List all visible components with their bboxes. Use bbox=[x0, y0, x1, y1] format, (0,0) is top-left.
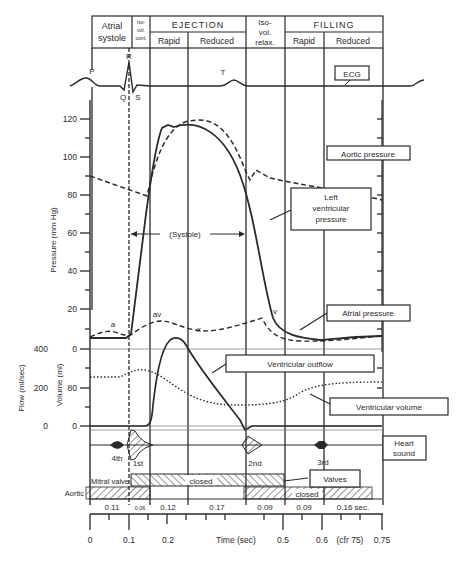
atrial-wave-x: x bbox=[197, 325, 201, 334]
phase-isovol-relax-3: relax. bbox=[255, 38, 275, 47]
ventricular-volume-label: Ventricular volume bbox=[356, 403, 422, 412]
heart-sound-track: 4th 1st 2nd 3rd Heart sound bbox=[90, 430, 426, 468]
pressure-tick-60: 60 bbox=[68, 228, 78, 238]
flow-tick-400: 400 bbox=[34, 344, 48, 354]
time-tick-cfr75: (cfr 75) bbox=[337, 535, 364, 545]
flow-axis-label: Flow (ml/sec) bbox=[17, 364, 26, 412]
ventricular-outflow-curve bbox=[90, 338, 382, 430]
flow-tick-0: 0 bbox=[43, 421, 48, 431]
mitral-valve-label: Mitral valve bbox=[91, 477, 129, 486]
pressure-tick-20: 20 bbox=[68, 304, 78, 314]
aortic-closed-bar-1 bbox=[86, 487, 150, 499]
sound-2nd bbox=[242, 436, 262, 454]
atrial-pressure-label: Atrial pressure bbox=[342, 309, 394, 318]
pressure-tick-80: 80 bbox=[68, 190, 78, 200]
systole-label: (Systole) bbox=[169, 230, 201, 239]
volume-tick-0: 0 bbox=[72, 421, 77, 431]
pressure-tick-40: 40 bbox=[68, 266, 78, 276]
ecg-q-wave-label: Q bbox=[120, 93, 126, 102]
time-tick-0.1: 0.1 bbox=[123, 535, 135, 545]
time-tick-0.5: 0.5 bbox=[277, 535, 289, 545]
flow-tick-200: 200 bbox=[34, 383, 48, 393]
volume-axis-label: Volume (ml) bbox=[55, 363, 64, 406]
heart-sound-label-2: sound bbox=[393, 449, 415, 458]
phase-durations-row: 0.11 0.06 0.12 0.17 0.09 0.09 0.16 sec. bbox=[90, 499, 382, 512]
ecg-trace: P Q R S T ECG bbox=[70, 52, 424, 102]
phase-isovol-cont: Iso- bbox=[137, 19, 146, 25]
aortic-pressure-label: Aortic pressure bbox=[341, 150, 395, 159]
atrial-wave-av: av bbox=[153, 310, 161, 319]
aortic-valve-label: Aortic bbox=[65, 489, 84, 498]
sound-label-2nd: 2nd bbox=[248, 459, 261, 468]
phase-header-table: Atrial systole Iso- vol. cont. EJECTION … bbox=[92, 16, 383, 48]
ecg-s-wave-label: S bbox=[135, 93, 140, 102]
ventricular-outflow-label: Ventricular outflow bbox=[267, 360, 333, 369]
sound-3rd bbox=[314, 441, 328, 449]
valve-track: closed Mitral valve closed Aortic Valves bbox=[65, 470, 372, 499]
phase-isovol-relax: Iso- bbox=[258, 18, 272, 27]
heart-sound-label-1: Heart bbox=[394, 439, 414, 448]
time-axis: 0 0.1 0.2 Time (sec) 0.5 0.6 (cfr 75) 0.… bbox=[88, 514, 391, 545]
phase-ejection-rapid: Rapid bbox=[158, 36, 180, 46]
lv-pressure-label-3: pressure bbox=[315, 215, 347, 224]
ventricular-volume-callout: Ventricular volume bbox=[310, 394, 448, 415]
duration-reduced-ejection: 0.17 bbox=[209, 503, 225, 512]
sound-label-4th: 4th bbox=[111, 454, 122, 463]
atrial-wave-a: a bbox=[111, 320, 116, 329]
time-tick-0.2: 0.2 bbox=[162, 535, 174, 545]
duration-atrial: 0.11 bbox=[105, 503, 121, 512]
sound-label-3rd: 3rd bbox=[317, 458, 329, 467]
time-tick-0: 0 bbox=[88, 535, 93, 545]
pressure-tick-100: 100 bbox=[63, 152, 77, 162]
valves-label: Valves bbox=[323, 475, 346, 484]
phase-filling-rapid: Rapid bbox=[293, 36, 315, 46]
pressure-axis-label: Pressure (mm Hg) bbox=[49, 207, 58, 273]
time-tick-0.75: 0.75 bbox=[374, 535, 391, 545]
duration-reduced-filling: 0.16 sec. bbox=[337, 503, 369, 512]
pressure-axis: 120 100 80 60 40 20 Pressure (mm Hg) bbox=[49, 100, 382, 505]
time-axis-label: Time (sec) bbox=[216, 535, 256, 545]
duration-isovol-relax: 0.09 bbox=[257, 503, 273, 512]
volume-tick-0-top: 0 bbox=[72, 344, 77, 354]
phase-ejection: EJECTION bbox=[172, 20, 225, 30]
duration-isovol-cont: 0.06 bbox=[135, 505, 146, 511]
phase-filling-reduced: Reduced bbox=[336, 36, 370, 46]
pressure-tick-120: 120 bbox=[63, 114, 77, 124]
ecg-r-wave-label: R bbox=[126, 52, 132, 61]
mitral-closed-label: closed bbox=[189, 477, 212, 486]
duration-rapid-ejection: 0.12 bbox=[160, 503, 176, 512]
time-tick-0.6: 0.6 bbox=[316, 535, 328, 545]
sound-1st bbox=[127, 430, 153, 460]
phase-ejection-reduced: Reduced bbox=[200, 36, 234, 46]
lv-pressure-label-1: Left bbox=[324, 193, 338, 202]
ecg-t-wave-label: T bbox=[221, 68, 226, 77]
phase-atrial-systole-2: systole bbox=[98, 33, 126, 43]
ventricular-outflow-callout: Ventricular outflow bbox=[212, 355, 374, 373]
phase-isovol-cont-2: vol. bbox=[137, 27, 145, 33]
phase-isovol-cont-3: cont. bbox=[136, 35, 147, 41]
sound-4th bbox=[110, 441, 124, 449]
phase-filling: FILLING bbox=[313, 20, 354, 30]
lv-pressure-label-2: ventricular bbox=[313, 204, 350, 213]
ecg-p-wave-label: P bbox=[89, 67, 94, 76]
atrial-wave-v: v bbox=[273, 307, 277, 316]
ecg-label: ECG bbox=[343, 70, 360, 79]
duration-rapid-filling: 0.09 bbox=[296, 503, 312, 512]
systole-interval-marker: (Systole) bbox=[131, 230, 245, 239]
aortic-closed-label: closed bbox=[295, 490, 318, 499]
phase-atrial-systole: Atrial bbox=[102, 21, 123, 31]
atrial-pressure-callout: Atrial pressure bbox=[300, 305, 410, 330]
aortic-pressure-callout: Aortic pressure bbox=[327, 146, 410, 160]
phase-isovol-relax-2: vol. bbox=[259, 28, 271, 37]
sound-label-1st: 1st bbox=[133, 459, 144, 468]
volume-tick-80: 80 bbox=[68, 383, 78, 393]
wiggers-diagram: Atrial systole Iso- vol. cont. EJECTION … bbox=[0, 0, 464, 561]
